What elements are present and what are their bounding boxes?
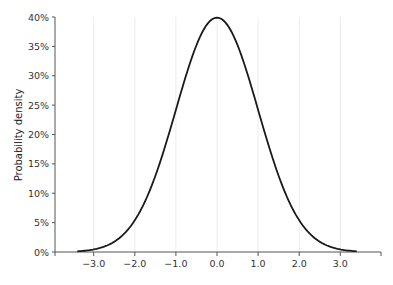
y-axis-title: Probability density (13, 89, 24, 182)
y-tick-label: 25% (28, 100, 49, 111)
x-tick-label: 3.0 (333, 258, 348, 269)
x-gridlines (94, 17, 341, 252)
y-tick-label: 35% (28, 41, 49, 52)
chart: 0%5%10%15%20%25%30%35%40% −3.0−2.0−1.00.… (0, 0, 393, 285)
y-tick-label: 10% (28, 188, 49, 199)
y-tick-label: 20% (28, 129, 49, 140)
x-tick-label: −1.0 (164, 258, 187, 269)
x-axis: −3.0−2.0−1.00.01.02.03.0 (55, 252, 381, 269)
x-tick-label: −2.0 (123, 258, 146, 269)
y-tick-label: 5% (34, 217, 49, 228)
y-tick-label: 40% (28, 12, 49, 23)
y-tick-label: 15% (28, 158, 49, 169)
x-tick-label: 2.0 (292, 258, 307, 269)
y-axis: 0%5%10%15%20%25%30%35%40% (28, 12, 55, 258)
x-tick-label: 1.0 (251, 258, 266, 269)
x-tick-label: 0.0 (209, 258, 224, 269)
y-tick-label: 30% (28, 70, 49, 81)
y-tick-label: 0% (34, 247, 49, 258)
x-tick-label: −3.0 (82, 258, 105, 269)
